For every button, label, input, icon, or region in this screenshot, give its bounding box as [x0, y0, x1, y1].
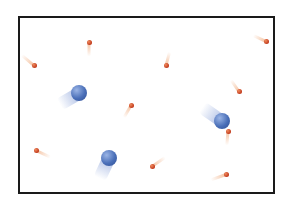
- small-particle: [264, 39, 269, 44]
- large-particle: [101, 150, 117, 166]
- small-particle: [224, 172, 229, 177]
- small-particle: [34, 148, 39, 153]
- small-particle: [150, 164, 155, 169]
- large-particle: [214, 113, 230, 129]
- small-particle: [226, 129, 231, 134]
- particle-diagram: [0, 0, 291, 203]
- small-particle: [164, 63, 169, 68]
- container-box: [18, 16, 275, 194]
- small-particle: [87, 40, 92, 45]
- large-particle: [71, 85, 87, 101]
- small-particle: [129, 103, 134, 108]
- small-particle: [32, 63, 37, 68]
- small-particle: [237, 89, 242, 94]
